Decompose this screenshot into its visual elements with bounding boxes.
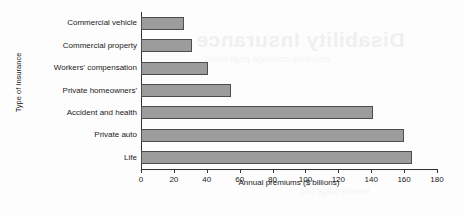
x-axis-tick (437, 169, 438, 173)
category-label: Commercial property (34, 41, 137, 50)
x-axis-tick (305, 169, 306, 173)
category-label: Private auto (34, 130, 137, 139)
category-label: Commercial vehicle (34, 18, 137, 27)
bar-life (141, 151, 412, 164)
bar-private-auto (141, 129, 404, 142)
page-bleed-line-2-artifact: reverse page text (300, 186, 370, 196)
category-label: Life (34, 153, 137, 162)
x-axis-tick (338, 169, 339, 173)
x-axis-line (141, 169, 438, 170)
x-axis-tick (207, 169, 208, 173)
bar-accident-and-health (141, 106, 373, 119)
category-label: Accident and health (34, 108, 137, 117)
x-axis-tick (371, 169, 372, 173)
bar-commercial-property (141, 39, 192, 52)
bar-private-homeowners (141, 84, 231, 97)
x-axis-tick (404, 169, 405, 173)
plot-area: 020406080100120140160180 (141, 12, 437, 169)
x-axis-tick (240, 169, 241, 173)
x-axis-title: Annual premiums ($ billions) (141, 178, 437, 187)
category-label: Private homeowners' (34, 86, 137, 95)
x-axis-tick (141, 169, 142, 173)
x-axis-tick (174, 169, 175, 173)
x-axis-tick (273, 169, 274, 173)
bar-workers-compensation (141, 62, 208, 75)
bar-commercial-vehicle (141, 17, 184, 30)
bar-chart-figure: Disability Insurance insurance coverage … (0, 0, 463, 216)
y-axis-title: Type of Insurance (14, 33, 23, 133)
category-label: Workers' compensation (34, 63, 137, 72)
category-label-column: Commercial vehicleCommercial propertyWor… (34, 12, 137, 169)
